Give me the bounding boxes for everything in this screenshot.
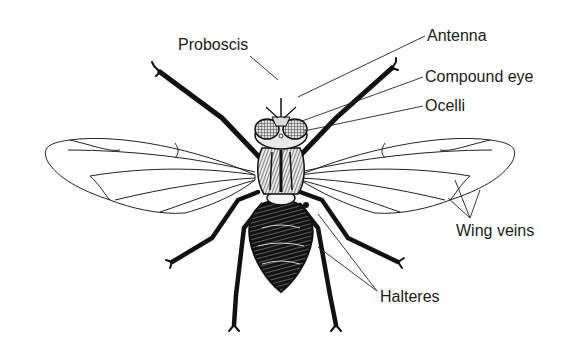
leader-compound-eye [302, 77, 423, 121]
haltere [303, 202, 309, 208]
fly-anatomy-diagram: Proboscis Antenna Compound eye Ocelli Wi… [0, 0, 587, 354]
label-wing-veins: Wing veins [456, 222, 534, 240]
label-halteres: Halteres [380, 288, 440, 306]
label-compound-eye: Compound eye [425, 68, 534, 86]
label-antenna: Antenna [427, 27, 487, 45]
antenna-left [266, 107, 278, 118]
label-ocelli: Ocelli [425, 97, 465, 115]
leader-proboscis [250, 56, 278, 80]
label-proboscis: Proboscis [178, 36, 248, 54]
leader-antenna [298, 36, 425, 97]
ocelli [279, 134, 283, 138]
fly-illustration [0, 0, 587, 354]
left-wing [45, 138, 255, 213]
right-wing [300, 138, 515, 213]
leader-ocelli [304, 106, 423, 131]
antenna-right [284, 107, 296, 118]
